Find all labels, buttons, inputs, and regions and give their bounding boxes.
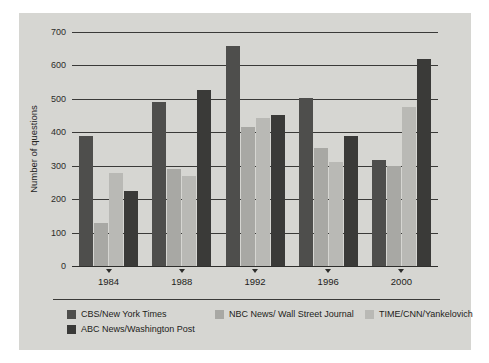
y-axis-tick-label: 600 <box>51 61 66 70</box>
x-axis-tick-label: 1996 <box>318 276 339 287</box>
y-axis-tick-label: 400 <box>51 128 66 137</box>
legend-item[interactable]: TIME/CNN/Yankelovich <box>365 307 473 322</box>
bar <box>152 102 166 266</box>
legend-item[interactable]: CBS/New York Times <box>67 307 167 322</box>
x-axis-tick-label: 1992 <box>244 276 265 287</box>
legend-label: TIME/CNN/Yankelovich <box>379 310 473 319</box>
legend-label: NBC News/ Wall Street Journal <box>229 310 354 319</box>
bar-group-1984 <box>79 32 138 266</box>
bar <box>402 107 416 266</box>
x-axis-tick-label: 2000 <box>391 276 412 287</box>
bar <box>167 169 181 266</box>
bar <box>329 162 343 266</box>
chart-figure: Number of questions 01002003004005006007… <box>19 13 471 350</box>
bar <box>387 166 401 266</box>
y-axis-tick-label: 300 <box>51 161 66 170</box>
bar <box>226 46 240 266</box>
bar <box>256 118 270 266</box>
plot-area: 0100200300400500600700 <box>72 32 438 266</box>
bar-group-1996 <box>299 32 358 266</box>
bar <box>314 148 328 266</box>
bar-group-1988 <box>152 32 211 266</box>
y-axis-tick-label: 0 <box>61 262 66 271</box>
bar <box>182 176 196 266</box>
x-axis-tick-marker <box>179 269 185 273</box>
bar <box>79 136 93 266</box>
legend-item[interactable]: ABC News/Washington Post <box>67 322 195 337</box>
x-axis-tick-marker <box>325 269 331 273</box>
legend-label: CBS/New York Times <box>81 310 167 319</box>
y-axis-tick-label: 100 <box>51 228 66 237</box>
y-axis-tick-label: 700 <box>51 28 66 37</box>
x-axis-tick-label: 1984 <box>98 276 119 287</box>
bar <box>271 115 285 266</box>
legend-divider <box>53 299 440 300</box>
legend-swatch <box>365 310 374 319</box>
bars-layer <box>72 32 438 266</box>
bar-group-1992 <box>226 32 285 266</box>
bar <box>344 136 358 266</box>
bar <box>109 173 123 266</box>
bar <box>94 223 108 266</box>
y-axis-tick-label: 500 <box>51 94 66 103</box>
bar <box>197 90 211 267</box>
legend-swatch <box>215 310 224 319</box>
legend-swatch <box>67 310 76 319</box>
legend-label: ABC News/Washington Post <box>81 325 195 334</box>
legend-swatch <box>67 325 76 334</box>
legend-row: CBS/New York TimesNBC News/ Wall Street … <box>67 307 467 322</box>
chart-legend: CBS/New York TimesNBC News/ Wall Street … <box>67 307 467 337</box>
y-axis-title: Number of questions <box>28 105 39 193</box>
bar <box>241 127 255 266</box>
bar <box>417 59 431 266</box>
legend-row: ABC News/Washington Post <box>67 322 467 337</box>
y-axis-tick-label: 200 <box>51 195 66 204</box>
bar-group-2000 <box>372 32 431 266</box>
bar <box>372 160 386 266</box>
x-axis-tick-marker <box>252 269 258 273</box>
legend-item[interactable]: NBC News/ Wall Street Journal <box>215 307 354 322</box>
x-axis-tick-marker <box>398 269 404 273</box>
x-axis-line <box>72 266 438 267</box>
bar <box>124 191 138 266</box>
x-axis-tick-marker <box>106 269 112 273</box>
bar <box>299 98 313 266</box>
x-axis-tick-label: 1988 <box>171 276 192 287</box>
